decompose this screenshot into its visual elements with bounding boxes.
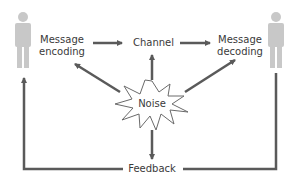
message-encoding-line2: encoding (32, 46, 92, 58)
communication-diagram: Message encoding Channel Message decodin… (0, 0, 299, 181)
arrow-noise-to-decoding (185, 60, 235, 92)
receiver-person-icon (268, 12, 284, 68)
diagram-canvas (0, 0, 299, 181)
feedback-label: Feedback (122, 163, 182, 175)
message-encoding-line1: Message (32, 34, 92, 46)
sender-person-icon (15, 12, 31, 68)
message-decoding-line2: decoding (210, 46, 270, 58)
message-encoding-label: Message encoding (32, 34, 92, 58)
arrow-feedback-to-sender (24, 78, 123, 169)
arrow-noise-to-encoding (75, 64, 120, 92)
message-decoding-label: Message decoding (210, 34, 270, 58)
feedback-line-from-receiver (183, 73, 276, 169)
message-decoding-line1: Message (210, 34, 270, 46)
noise-label: Noise (132, 98, 172, 110)
channel-label: Channel (133, 37, 173, 49)
